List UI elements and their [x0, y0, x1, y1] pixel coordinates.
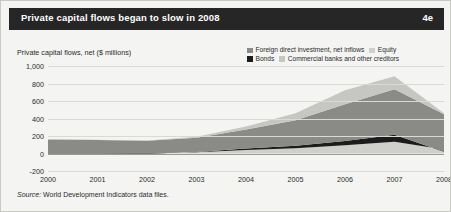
legend-label-banks: Commercial banks and other creditors	[288, 55, 399, 64]
x-tick-label: 2004	[238, 175, 254, 184]
gridline	[48, 84, 444, 85]
legend-label-equity: Equity	[378, 46, 396, 55]
y-tick-label: -200	[4, 167, 44, 176]
zero-line	[48, 154, 444, 155]
source-text: World Development Indicators data files.	[43, 191, 169, 198]
gridline	[48, 171, 444, 172]
gridline	[48, 136, 444, 137]
title-bar: Private capital flows began to slow in 2…	[9, 8, 444, 30]
plot-area	[48, 66, 444, 171]
gridline	[48, 119, 444, 120]
axis-title: Private capital flows, net ($ millions)	[17, 48, 131, 57]
x-tick-label: 2001	[90, 175, 106, 184]
legend-item-equity: Equity	[369, 46, 396, 55]
x-tick-label: 2003	[189, 175, 205, 184]
y-tick-label: 0	[4, 149, 44, 158]
source-note: Source: World Development Indicators dat…	[17, 191, 169, 198]
legend-swatch-bonds	[247, 56, 253, 62]
legend-row: Bonds Commercial banks and other credito…	[247, 55, 447, 64]
legend-item-fdi: Foreign direct investment, net inflows	[247, 46, 364, 55]
y-tick-label: 600	[4, 97, 44, 106]
x-tick-label: 2006	[337, 175, 353, 184]
x-tick-label: 2002	[139, 175, 155, 184]
y-axis-labels: 1,0008006004002000-200	[1, 66, 44, 171]
page-title: Private capital flows began to slow in 2…	[21, 12, 220, 23]
legend-row: Foreign direct investment, net inflows E…	[247, 46, 447, 55]
legend-label-fdi: Foreign direct investment, net inflows	[256, 46, 365, 55]
gridline	[48, 66, 444, 67]
x-tick-label: 2008	[436, 175, 451, 184]
x-tick-label: 2005	[288, 175, 304, 184]
x-tick-label: 2000	[40, 175, 56, 184]
legend-item-bonds: Bonds	[247, 55, 274, 64]
legend-item-banks: Commercial banks and other creditors	[279, 55, 399, 64]
x-axis-labels: 200020012002200320042005200620072008	[48, 175, 444, 187]
y-tick-label: 1,000	[4, 62, 44, 71]
legend-label-bonds: Bonds	[256, 55, 275, 64]
gridline	[48, 101, 444, 102]
y-tick-label: 800	[4, 79, 44, 88]
legend-swatch-fdi	[247, 48, 253, 54]
x-tick-label: 2007	[387, 175, 403, 184]
source-prefix: Source:	[17, 191, 41, 198]
legend-swatch-equity	[369, 48, 375, 54]
legend-swatch-banks	[279, 56, 285, 62]
y-tick-label: 200	[4, 132, 44, 141]
figure-panel: Private capital flows began to slow in 2…	[0, 0, 451, 212]
chart-legend: Foreign direct investment, net inflows E…	[247, 46, 447, 63]
figure-number: 4e	[422, 12, 433, 23]
y-tick-label: 400	[4, 114, 44, 123]
